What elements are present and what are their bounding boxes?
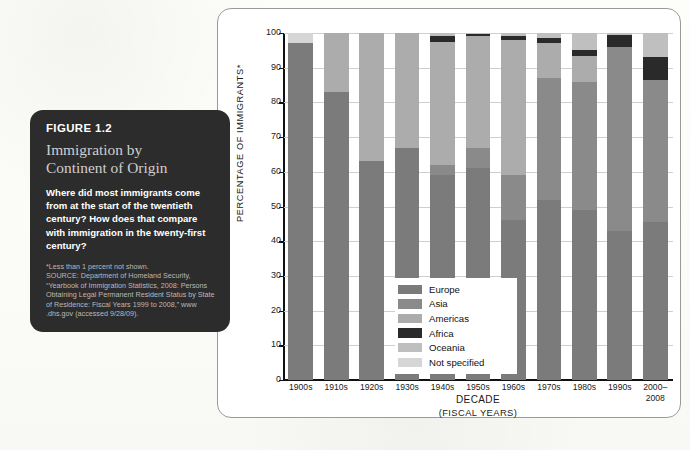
y-tick-label: 70 xyxy=(257,132,281,141)
legend-label: Asia xyxy=(429,298,448,309)
bar-segment[interactable] xyxy=(430,165,455,175)
legend-swatch xyxy=(398,328,422,338)
bar-segment[interactable] xyxy=(359,33,384,161)
bar-segment[interactable] xyxy=(324,33,349,92)
y-tick-label: 60 xyxy=(257,167,281,176)
bar-segment[interactable] xyxy=(395,33,420,148)
bar-group[interactable] xyxy=(572,33,597,380)
bar-segment[interactable] xyxy=(643,57,668,80)
legend-swatch xyxy=(398,299,422,309)
y-tick-label: 40 xyxy=(257,236,281,245)
bar-segment[interactable] xyxy=(359,161,384,380)
y-tick-label: 0 xyxy=(257,375,281,384)
bar-segment[interactable] xyxy=(537,200,562,380)
source-line: of Residence: Fiscal Years 1999 to 2008,… xyxy=(46,300,216,309)
bar-segment[interactable] xyxy=(466,148,491,169)
figure-number: FIGURE 1.2 xyxy=(46,122,216,134)
x-axis-label-sub: (FISCAL YEARS) xyxy=(283,407,673,420)
bar-segment[interactable] xyxy=(501,175,526,220)
bar-segment[interactable] xyxy=(288,43,313,380)
y-tick-label: 100 xyxy=(257,28,281,37)
y-tick-label: 10 xyxy=(257,340,281,349)
legend-item[interactable]: Asia xyxy=(398,297,513,312)
y-tick-label: 80 xyxy=(257,97,281,106)
bar-segment[interactable] xyxy=(537,43,562,78)
bar-segment[interactable] xyxy=(430,36,455,41)
legend-swatch xyxy=(398,358,422,368)
legend-item[interactable]: Oceania xyxy=(398,340,513,355)
legend-swatch xyxy=(398,343,422,353)
source-line: .dhs.gov (accessed 9/28/09). xyxy=(46,309,216,318)
legend-label: Not specified xyxy=(429,357,484,368)
bar-segment[interactable] xyxy=(466,34,491,36)
source-line: *Less than 1 percent not shown. xyxy=(46,262,216,271)
x-axis-label: DECADE (FISCAL YEARS) xyxy=(283,394,673,419)
bar-segment[interactable] xyxy=(466,33,491,34)
bar-segment[interactable] xyxy=(537,33,562,38)
bar-segment[interactable] xyxy=(430,33,455,36)
legend-swatch xyxy=(398,314,422,324)
plot-area: EuropeAsiaAmericasAfricaOceaniaNot speci… xyxy=(283,33,671,380)
bar-segment[interactable] xyxy=(607,231,632,380)
legend-item[interactable]: Not specified xyxy=(398,355,513,370)
legend-item[interactable]: Africa xyxy=(398,326,513,341)
bar-segment[interactable] xyxy=(643,33,668,57)
bar-segment[interactable] xyxy=(501,40,526,175)
legend-swatch xyxy=(398,285,422,295)
bar-segment[interactable] xyxy=(537,78,562,199)
bar-group[interactable] xyxy=(359,33,384,380)
bar-segment[interactable] xyxy=(572,33,597,50)
source-line: Obtaining Legal Permanent Resident Statu… xyxy=(46,290,216,299)
legend-label: Americas xyxy=(429,313,469,324)
bar-segment[interactable] xyxy=(607,33,632,35)
figure-caption-box: FIGURE 1.2 Immigration by Continent of O… xyxy=(30,110,230,332)
bar-segment[interactable] xyxy=(607,47,632,231)
bar-segment[interactable] xyxy=(643,80,668,222)
legend-item[interactable]: Europe xyxy=(398,282,513,297)
bar-segment[interactable] xyxy=(466,36,491,147)
bar-group[interactable] xyxy=(643,33,668,380)
bar-group[interactable] xyxy=(324,33,349,380)
bar-segment[interactable] xyxy=(572,56,597,82)
figure-title: Immigration by Continent of Origin xyxy=(46,141,216,177)
legend-item[interactable]: Americas xyxy=(398,311,513,326)
y-tick-label: 90 xyxy=(257,63,281,72)
bar-group[interactable] xyxy=(607,33,632,380)
figure-description: Where did most immigrants come from at t… xyxy=(46,186,216,252)
y-tick-label: 20 xyxy=(257,306,281,315)
bar-segment[interactable] xyxy=(537,38,562,43)
figure-source-note: *Less than 1 percent not shown.SOURCE: D… xyxy=(46,262,216,318)
bar-group[interactable] xyxy=(288,33,313,380)
bar-segment[interactable] xyxy=(572,50,597,55)
x-tick-label-line: 2000– xyxy=(634,382,677,393)
y-tick-label: 50 xyxy=(257,202,281,211)
legend-label: Europe xyxy=(429,284,460,295)
bar-segment[interactable] xyxy=(572,210,597,380)
figure-title-line2: Continent of Origin xyxy=(46,159,216,177)
page-background: PERCENTAGE OF IMMIGRANTS* 01020304050607… xyxy=(0,0,690,450)
y-tick-label: 30 xyxy=(257,271,281,280)
source-line: SOURCE: Department of Homeland Security, xyxy=(46,271,216,280)
bar-segment[interactable] xyxy=(430,42,455,165)
x-axis-label-main: DECADE xyxy=(283,394,673,407)
figure-title-line1: Immigration by xyxy=(46,141,216,159)
bar-group[interactable] xyxy=(537,33,562,380)
bar-segment[interactable] xyxy=(501,36,526,39)
bar-segment[interactable] xyxy=(501,33,526,36)
chart-figure: PERCENTAGE OF IMMIGRANTS* 01020304050607… xyxy=(217,8,683,420)
bar-segment[interactable] xyxy=(643,222,668,380)
y-axis-tick-labels: 0102030405060708090100 xyxy=(253,8,281,420)
bar-segment[interactable] xyxy=(324,92,349,380)
source-line: “Yearbook of Immigration Statistics, 200… xyxy=(46,281,216,290)
legend-label: Oceania xyxy=(429,342,465,353)
bar-segment[interactable] xyxy=(607,35,632,47)
y-axis-label: PERCENTAGE OF IMMIGRANTS* xyxy=(235,28,245,258)
legend-label: Africa xyxy=(429,328,454,339)
bar-segment[interactable] xyxy=(288,33,313,43)
bar-segment[interactable] xyxy=(572,82,597,210)
chart-legend: EuropeAsiaAmericasAfricaOceaniaNot speci… xyxy=(395,278,517,374)
